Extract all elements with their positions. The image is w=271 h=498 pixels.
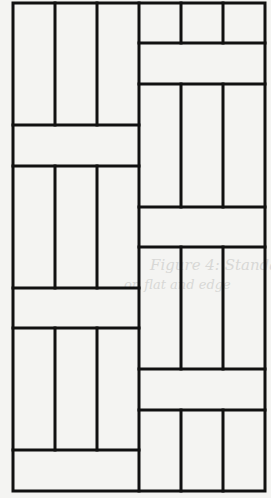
basketweave-diagram — [0, 0, 271, 498]
